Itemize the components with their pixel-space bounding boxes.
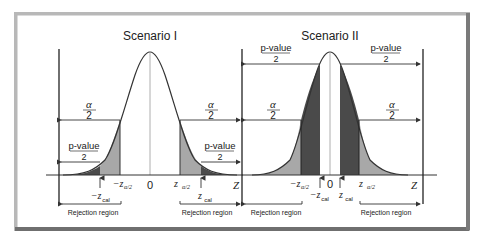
svg-text:α: α <box>86 98 92 110</box>
rejection-region-left-2: Rejection region <box>251 209 302 217</box>
svg-text:2: 2 <box>86 110 92 121</box>
svg-text:z: z <box>197 190 202 201</box>
svg-text:2: 2 <box>208 110 214 121</box>
svg-text:2: 2 <box>270 110 276 121</box>
svg-text:0: 0 <box>327 178 333 190</box>
svg-text:p-value: p-value <box>260 42 291 53</box>
zero-label: 0 <box>147 179 153 191</box>
svg-text:α/2: α/2 <box>367 184 375 190</box>
svg-text:α: α <box>208 98 214 110</box>
diagram-canvas: Scenario I α 2 α 2 p-value 2 p-value 2 <box>14 12 470 231</box>
svg-text:z: z <box>173 178 178 189</box>
svg-text:−z: −z <box>113 178 124 189</box>
svg-text:α/2: α/2 <box>124 184 132 190</box>
svg-text:p-value: p-value <box>370 42 401 53</box>
rejection-region-right-2: Rejection region <box>361 209 412 217</box>
svg-text:−z: −z <box>91 190 102 201</box>
svg-text:α: α <box>270 98 276 110</box>
rejection-region-left: Rejection region <box>68 209 119 217</box>
svg-text:z: z <box>338 189 343 200</box>
svg-text:α/2: α/2 <box>182 184 190 190</box>
scenario-2-title: Scenario II <box>301 29 358 43</box>
svg-text:cal: cal <box>321 196 329 202</box>
svg-text:2: 2 <box>389 110 395 121</box>
svg-text:α/2: α/2 <box>301 184 309 190</box>
svg-text:cal: cal <box>102 197 110 203</box>
svg-text:p-value: p-value <box>204 140 235 151</box>
svg-text:Z: Z <box>411 179 418 191</box>
svg-text:2: 2 <box>217 152 222 162</box>
svg-text:2: 2 <box>383 54 388 64</box>
rejection-region-right: Rejection region <box>182 209 233 217</box>
svg-text:−z: −z <box>310 189 321 200</box>
scenario-1-title: Scenario I <box>123 29 177 43</box>
svg-text:cal: cal <box>204 197 212 203</box>
svg-text:2: 2 <box>273 54 278 64</box>
z-axis-label: Z <box>233 179 240 191</box>
figure-frame: Scenario I α 2 α 2 p-value 2 p-value 2 <box>14 12 470 231</box>
svg-text:z: z <box>358 178 363 189</box>
svg-text:cal: cal <box>345 196 353 202</box>
svg-text:2: 2 <box>81 152 86 162</box>
svg-text:p-value: p-value <box>68 140 99 151</box>
svg-text:−z: −z <box>290 178 301 189</box>
svg-text:α: α <box>389 98 395 110</box>
